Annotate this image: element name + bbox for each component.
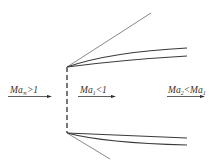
- flow-diagram: Ma∞>1 Ma1<1 Ma2<Ma1: [0, 0, 218, 160]
- region1-label: Ma1<1: [79, 85, 107, 96]
- freestream-label: Ma∞>1: [9, 85, 38, 96]
- lower-boundary-outer: [67, 133, 187, 145]
- region2-label: Ma2<Ma1: [167, 85, 206, 96]
